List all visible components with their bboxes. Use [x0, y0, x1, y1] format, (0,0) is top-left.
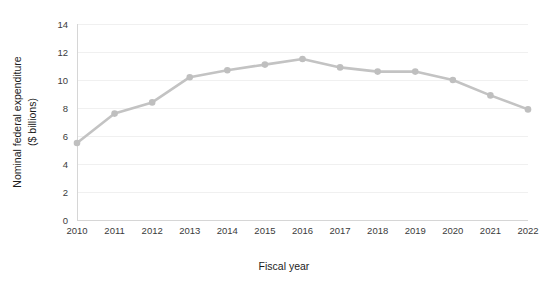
- line-chart-figure: 02468101214 2010201120122013201420152016…: [0, 0, 539, 284]
- gridlines-group: [77, 24, 528, 192]
- y-axis-tick-labels: 02468101214: [57, 19, 68, 226]
- x-axis-tick-label: 2018: [367, 225, 388, 236]
- data-point-markers: [74, 56, 532, 147]
- data-point-marker: [186, 74, 193, 81]
- x-axis-tick-label: 2011: [104, 225, 124, 236]
- x-axis-title: Fiscal year: [259, 260, 310, 272]
- x-axis-tick-label: 2013: [179, 225, 200, 236]
- y-axis-title-line-1: Nominal federal expenditure: [11, 56, 23, 187]
- x-axis-tick-label: 2014: [217, 225, 238, 236]
- x-axis-tick-label: 2021: [480, 225, 501, 236]
- y-axis-tick-label: 8: [63, 103, 68, 114]
- data-point-marker: [299, 56, 306, 63]
- y-axis-tick-label: 6: [63, 131, 68, 142]
- x-axis-tick-label: 2010: [66, 225, 87, 236]
- data-point-marker: [487, 92, 494, 99]
- y-axis-tick-label: 14: [57, 19, 68, 30]
- data-point-marker: [374, 68, 381, 75]
- data-point-marker: [262, 61, 269, 68]
- data-point-marker: [149, 99, 156, 106]
- y-axis-tick-label: 10: [57, 75, 68, 86]
- data-point-marker: [111, 110, 118, 117]
- y-axis-tick-label: 4: [63, 159, 68, 170]
- y-axis-tick-label: 0: [63, 215, 68, 226]
- chart-canvas: 02468101214 2010201120122013201420152016…: [0, 0, 539, 284]
- x-axis-tick-label: 2020: [442, 225, 463, 236]
- x-axis-tick-label: 2022: [517, 225, 538, 236]
- data-point-marker: [224, 67, 231, 74]
- y-axis-tick-label: 2: [63, 187, 68, 198]
- data-point-marker: [412, 68, 419, 75]
- data-point-marker: [450, 77, 457, 84]
- y-axis-title-line-2: ($ billions): [26, 98, 38, 146]
- x-axis-tick-label: 2015: [254, 225, 275, 236]
- data-point-marker: [74, 140, 81, 147]
- data-point-marker: [337, 64, 344, 71]
- data-point-marker: [525, 106, 532, 113]
- x-axis-tick-labels: 2010201120122013201420152016201720182019…: [66, 225, 538, 236]
- x-axis-tick-label: 2016: [292, 225, 313, 236]
- y-axis-tick-label: 12: [57, 47, 68, 58]
- x-axis-tick-label: 2017: [330, 225, 351, 236]
- x-axis-tick-label: 2012: [142, 225, 163, 236]
- x-axis-tick-label: 2019: [405, 225, 426, 236]
- data-series-line: [77, 59, 528, 143]
